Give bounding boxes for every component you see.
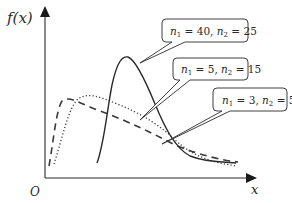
origin-label: O [30,185,40,199]
callout-label-2: n1 = 5, n2 = 15 [181,63,261,77]
callout-n1-3-n2-5: n1 = 3, n2 = 5 [162,88,292,144]
x-axis-label: x [251,182,259,197]
callout-label-3: n1 = 3, n2 = 5 [222,94,292,108]
callout-label-1: n1 = 40, n2 = 25 [170,25,257,39]
curve-n1-3-n2-5 [49,99,238,166]
y-axis-label: f(x) [6,9,33,27]
callout-n1-40-n2-25: n1 = 40, n2 = 25 [140,19,257,63]
f-distribution-diagram: f(x) x O n1 = 40, n2 = 25 n1 = 5, n2 = 1… [0,0,292,203]
y-axis-arrow-icon [40,6,50,17]
